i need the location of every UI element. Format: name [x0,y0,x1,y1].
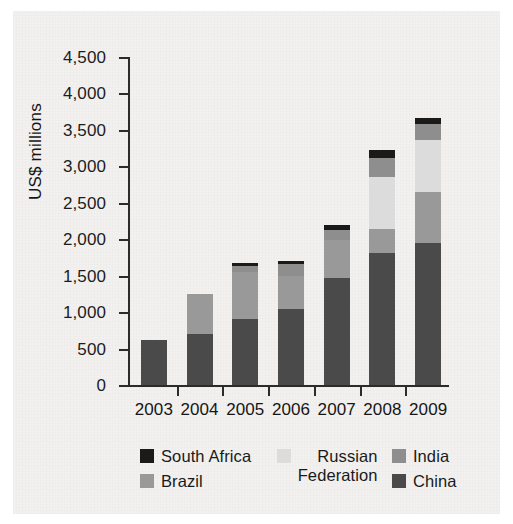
bar-segment-china [415,243,441,385]
bar-segment-india [324,230,350,240]
x-axis-tick [360,387,362,396]
legend-swatch-icon [140,449,154,463]
bar-segment-brazil [232,272,258,320]
x-axis-label: 2003 [135,400,173,420]
y-axis-tick-label: 2,000 [63,230,106,250]
legend-swatch-icon [277,449,291,463]
bar-segment-russian-federation [415,140,441,191]
x-axis-label: 2004 [180,400,218,420]
x-axis-label: 2007 [318,400,356,420]
x-axis-label: 2009 [409,400,447,420]
legend-swatch-icon [392,474,406,488]
legend: South AfricaBrazil Russian Federation In… [140,447,470,491]
y-axis-tick-label: 0 [96,376,106,396]
bar-segment-brazil [324,240,350,277]
y-axis-tick: 4,500 [119,57,128,59]
bar-segment-brazil [278,276,304,310]
bar-segment-china [324,278,350,386]
y-axis-tick-label: 3,000 [63,157,106,177]
legend-column-3: IndiaChina [392,447,470,491]
legend-item-india[interactable]: India [392,447,470,466]
y-axis-tick-label: 3,500 [63,121,106,141]
bar-segment-india [369,158,395,178]
legend-item-label: South Africa [161,447,251,466]
bar-segment-china [141,340,167,385]
x-axis-tick [177,387,179,396]
bar-segment-china [369,253,395,385]
bar-segment-brazil [415,192,441,243]
bar-segment-china [187,334,213,385]
y-axis-tick: 2,500 [119,203,128,205]
bar-segment-india [415,124,441,140]
legend-item-label: India [413,447,449,466]
y-axis-tick: 1,500 [119,276,128,278]
y-axis-tick-label: 2,500 [63,194,106,214]
x-axis-tick [268,387,270,396]
legend-column-2: Russian Federation [277,447,392,485]
bar-segment-china [278,309,304,385]
plot-area: 05001,0001,5002,0002,5003,0003,5004,0004… [128,57,448,385]
bar-segment-russian-federation [369,177,395,229]
y-axis-tick: 0 [119,385,128,387]
y-axis-tick-label: 4,500 [63,48,106,68]
figure-root: US$ millions 05001,0001,5002,0002,5003,0… [0,0,513,524]
y-axis-tick: 500 [119,349,128,351]
bar-segment-china [232,319,258,385]
y-axis-tick: 3,500 [119,130,128,132]
bar-stack [415,118,441,385]
bar-stack [141,340,167,385]
y-axis-tick-label: 500 [77,340,106,360]
y-axis-tick-label: 4,000 [63,84,106,104]
bar-segment-brazil [369,229,395,253]
x-axis-tick [314,387,316,396]
x-axis-label: 2008 [363,400,401,420]
legend-item-label: China [413,472,457,491]
legend-item-russian-federation[interactable]: Russian Federation [277,447,392,485]
bar-stack [232,263,258,385]
legend-item-brazil[interactable]: Brazil [140,472,277,491]
y-axis-tick: 4,000 [119,93,128,95]
bar-segment-south-africa [369,150,395,157]
y-axis-tick: 3,000 [119,166,128,168]
legend-column-1: South AfricaBrazil [140,447,277,491]
bar-segment-brazil [187,294,213,333]
bar-stack [187,294,213,385]
y-axis-tick-label: 1,500 [63,267,106,287]
bar-segment-india [278,264,304,275]
legend-item-label: Russian Federation [298,447,378,485]
y-axis-tick: 2,000 [119,239,128,241]
x-axis-tick [222,387,224,396]
bar-stack [324,225,350,385]
legend-item-label: Brazil [161,472,203,491]
x-axis-label: 2006 [272,400,310,420]
y-axis-tick-label: 1,000 [63,303,106,323]
legend-item-south-africa[interactable]: South Africa [140,447,277,466]
legend-swatch-icon [140,474,154,488]
y-axis-line [128,57,130,386]
y-axis-title: US$ millions [26,103,46,200]
y-axis-tick: 1,000 [119,312,128,314]
x-axis-label: 2005 [226,400,264,420]
legend-item-china[interactable]: China [392,472,470,491]
bar-stack [278,261,304,385]
x-axis-tick [405,387,407,396]
legend-swatch-icon [392,449,406,463]
bar-stack [369,150,395,385]
